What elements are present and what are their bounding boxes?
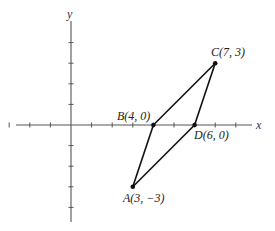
x-axis-label: x [255, 118, 262, 132]
label-d: D(6, 0) [193, 128, 229, 142]
parallelogram-figure: y x A(3, −3) B(4, 0) C(7, 3) D(6, 0) [0, 0, 275, 231]
y-axis-label: y [66, 7, 73, 21]
coordinate-plane: y x A(3, −3) B(4, 0) C(7, 3) D(6, 0) [0, 0, 275, 231]
label-a: A(3, −3) [122, 191, 164, 205]
label-b: B(4, 0) [117, 109, 150, 123]
label-c: C(7, 3) [211, 45, 245, 59]
edge-bc [153, 63, 215, 125]
edge-da [133, 125, 195, 187]
point-c [213, 61, 218, 66]
point-d [192, 123, 197, 128]
point-b [151, 123, 156, 128]
point-a [131, 185, 136, 190]
